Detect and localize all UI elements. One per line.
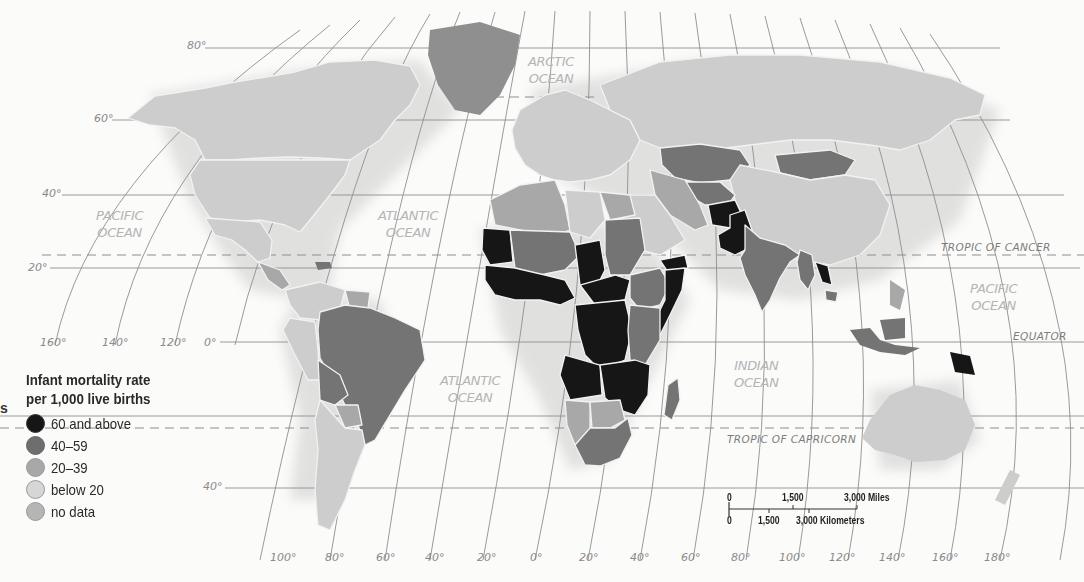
lon-label: 40° <box>425 552 445 563</box>
country-egypt <box>600 192 635 220</box>
scale-bar: 0 1,500 3,000 Miles 0 1,500 3,000 Kilome… <box>726 494 896 534</box>
country-morocco-algeria <box>490 180 570 235</box>
country-cambodia <box>825 290 838 302</box>
legend-title-line1: Infant mortality rate <box>26 370 150 389</box>
lon-label: 60° <box>376 552 396 563</box>
lon-label: 160° <box>932 552 959 563</box>
label-tropic-of-cancer: TROPIC OF CANCER <box>941 241 1051 253</box>
legend-title-line2: per 1,000 live births <box>26 389 150 408</box>
legend-swatch-icon <box>26 458 45 477</box>
ocean-label-atlantic-north: ATLANTICOCEAN <box>378 207 438 241</box>
lat-label-0: 0° <box>204 337 217 348</box>
ocean-label-pacific-east: PACIFICOCEAN <box>970 280 1017 314</box>
ocean-label-indian: INDIANOCEAN <box>734 357 779 391</box>
lon-label: 0° <box>530 552 543 563</box>
label-tropic-of-capricorn: TROPIC OF CAPRICORN <box>727 433 856 445</box>
legend-swatch-icon <box>26 436 45 455</box>
lat-label-40s: 40° <box>203 481 223 492</box>
legend-label: 60 and above <box>51 415 131 432</box>
country-mauritania <box>482 228 513 265</box>
country-papua-new-guinea <box>950 352 975 375</box>
legend-swatch-icon <box>26 502 45 521</box>
scale-km-3000: 3,000 Kilometers <box>796 514 864 526</box>
legend-label: 40–59 <box>51 437 88 454</box>
lat-label-80: 80° <box>187 40 207 51</box>
lon-label-160w: 160° <box>40 337 67 348</box>
legend-item-20-39: 20–39 <box>26 456 171 478</box>
legend-item-no-data: no data <box>26 500 171 522</box>
scale-km-0: 0 <box>727 514 732 526</box>
edge-fragment-text: s <box>0 400 8 416</box>
legend-item-40-59: 40–59 <box>26 434 171 456</box>
scale-miles-3000: 3,000 Miles <box>844 491 889 503</box>
country-philippines <box>890 280 905 310</box>
lon-label-120w: 120° <box>160 337 187 348</box>
ocean-label-atlantic-south: ATLANTICOCEAN <box>440 372 500 406</box>
legend-label: below 20 <box>51 481 104 498</box>
lon-label: 60° <box>681 552 701 563</box>
label-equator: EQUATOR <box>1013 330 1067 342</box>
lon-label: 100° <box>270 552 297 563</box>
lat-label-60: 60° <box>94 113 114 124</box>
ocean-label-pacific-west: PACIFICOCEAN <box>96 207 143 241</box>
country-borneo <box>880 318 905 340</box>
country-russia <box>600 55 985 150</box>
country-madagascar <box>664 378 680 420</box>
lon-label: 20° <box>477 552 497 563</box>
scale-km-1500: 1,500 <box>758 514 780 526</box>
lon-label: 120° <box>829 552 856 563</box>
legend-item-60-and-above: 60 and above <box>26 412 171 434</box>
lon-label: 40° <box>630 552 650 563</box>
ocean-label-arctic: ARCTICOCEAN <box>528 53 574 87</box>
lat-label-40: 40° <box>42 188 62 199</box>
lon-label: 100° <box>779 552 806 563</box>
legend-label: no data <box>51 503 95 520</box>
legend-swatch-icon <box>26 480 45 499</box>
lon-label: 20° <box>579 552 599 563</box>
lon-label: 140° <box>879 552 906 563</box>
lon-label: 80° <box>325 552 345 563</box>
lon-label-140w: 140° <box>102 337 129 348</box>
lat-label-20: 20° <box>28 262 48 273</box>
lon-label: 180° <box>984 552 1011 563</box>
legend-swatch-icon <box>26 414 45 433</box>
map-legend: Infant mortality rate per 1,000 live bir… <box>26 370 171 522</box>
scale-miles-1500: 1,500 <box>782 491 804 503</box>
legend-item-below-20: below 20 <box>26 478 171 500</box>
scale-miles-0: 0 <box>727 491 732 503</box>
legend-label: 20–39 <box>51 459 88 476</box>
country-new-zealand <box>995 470 1020 505</box>
lon-label: 80° <box>731 552 751 563</box>
